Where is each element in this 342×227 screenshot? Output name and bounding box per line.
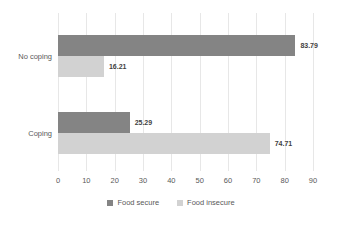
x-tick-label: 50 — [195, 176, 203, 185]
x-tick-label: 20 — [110, 176, 118, 185]
legend-marker-icon — [177, 200, 183, 206]
x-axis: 0102030405060708090 — [58, 176, 313, 186]
legend-item: Food secure — [107, 198, 159, 207]
bar-food-secure — [58, 112, 130, 133]
x-tick-label: 40 — [167, 176, 175, 185]
data-label: 16.21 — [109, 56, 127, 77]
x-tick-label: 70 — [252, 176, 260, 185]
x-tick-label: 0 — [56, 176, 60, 185]
bar-chart: 83.7916.2125.2974.71 0102030405060708090… — [0, 0, 342, 227]
category-label: Coping — [0, 129, 52, 138]
data-label: 25.29 — [135, 112, 153, 133]
data-label: 74.71 — [275, 133, 293, 154]
x-tick-label: 60 — [224, 176, 232, 185]
data-label: 83.79 — [300, 35, 318, 56]
plot-area: 83.7916.2125.2974.71 — [58, 13, 313, 171]
x-tick-label: 30 — [139, 176, 147, 185]
x-tick-label: 90 — [309, 176, 317, 185]
legend-item: Food insecure — [177, 198, 235, 207]
bar-food-insecure — [58, 133, 270, 154]
bar-food-insecure — [58, 56, 104, 77]
x-tick-label: 80 — [280, 176, 288, 185]
legend-marker-icon — [107, 200, 113, 206]
category-label: No coping — [0, 52, 52, 61]
legend-label: Food insecure — [187, 198, 235, 207]
x-tick-label: 10 — [82, 176, 90, 185]
legend: Food secureFood insecure — [0, 198, 342, 207]
bar-food-secure — [58, 35, 295, 56]
legend-label: Food secure — [117, 198, 159, 207]
